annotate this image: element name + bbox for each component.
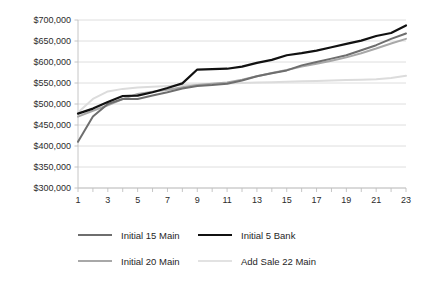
y-axis-tick-label: $450,000 (33, 120, 71, 130)
x-axis-tick-label: 17 (312, 195, 322, 205)
x-axis-tick-label: 5 (135, 195, 140, 205)
plot-area: $700,000$650,000$600,000$550,000$500,000… (0, 0, 430, 215)
y-axis-tick-label: $400,000 (33, 141, 71, 151)
series-line-initial-5-bank (78, 25, 406, 113)
legend-item-initial-15-main: Initial 15 Main (0, 230, 170, 241)
chart-container: $700,000$650,000$600,000$550,000$500,000… (0, 0, 430, 287)
legend-swatch-add-sale-22-main (198, 260, 232, 262)
legend-label-initial-5-bank: Initial 5 Bank (241, 230, 295, 241)
legend-swatch-initial-20-main (78, 260, 112, 262)
legend-item-initial-20-main: Initial 20 Main (0, 256, 170, 267)
y-axis-tick-label: $650,000 (33, 36, 71, 46)
y-axis-tick-label: $700,000 (33, 15, 71, 25)
y-axis-labels: $700,000$650,000$600,000$550,000$500,000… (33, 15, 71, 193)
series-lines (78, 25, 406, 141)
x-axis (78, 20, 406, 192)
legend-row-1: Initial 15 Main Initial 5 Bank (0, 222, 430, 248)
x-axis-tick-label: 23 (401, 195, 411, 205)
legend-row-2: Initial 20 Main Add Sale 22 Main (0, 248, 430, 274)
legend-item-initial-5-bank: Initial 5 Bank (170, 230, 370, 241)
legend-item-add-sale-22-main: Add Sale 22 Main (170, 256, 370, 267)
chart-svg: $700,000$650,000$600,000$550,000$500,000… (0, 0, 430, 215)
legend-label-add-sale-22-main: Add Sale 22 Main (241, 256, 316, 267)
y-axis-tick-label: $500,000 (33, 99, 71, 109)
series-line-initial-20-main (78, 39, 406, 117)
y-axis-tick-label: $600,000 (33, 57, 71, 67)
x-axis-tick-label: 21 (371, 195, 381, 205)
x-axis-tick-label: 7 (165, 195, 170, 205)
x-axis-tick-label: 9 (195, 195, 200, 205)
legend-swatch-initial-5-bank (198, 234, 232, 236)
x-axis-tick-label: 3 (105, 195, 110, 205)
y-axis-tick-label: $550,000 (33, 78, 71, 88)
x-axis-labels: 1357911131517192123 (75, 195, 411, 205)
legend-swatch-initial-15-main (78, 234, 112, 236)
y-axis-tick-label: $350,000 (33, 162, 71, 172)
y-axis-tick-label: $300,000 (33, 183, 71, 193)
gridlines (75, 20, 407, 188)
x-axis-tick-label: 13 (252, 195, 262, 205)
x-axis-tick-label: 19 (341, 195, 351, 205)
x-axis-tick-label: 11 (222, 195, 231, 205)
x-axis-tick-label: 1 (75, 195, 80, 205)
chart-legend: Initial 15 Main Initial 5 Bank Initial 2… (0, 222, 430, 282)
x-axis-tick-label: 15 (282, 195, 292, 205)
